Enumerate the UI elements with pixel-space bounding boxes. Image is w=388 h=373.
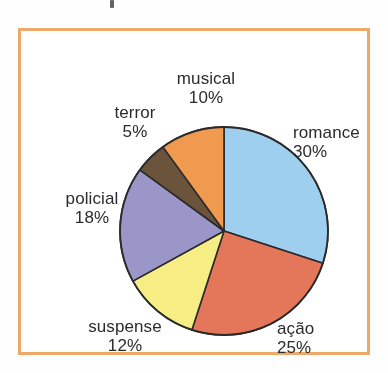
slice-label-suspense: suspense 12% — [69, 317, 181, 355]
slice-label-romance: romance 30% — [293, 123, 388, 161]
slice-label-romance-name: romance — [293, 123, 388, 142]
slice-label-policial-name: policial — [48, 189, 136, 208]
pie-chart: romance 30% ação 25% suspense 12% polici… — [21, 31, 367, 352]
slice-label-romance-value: 30% — [293, 142, 388, 161]
slice-label-policial-value: 18% — [48, 208, 136, 227]
slice-label-policial: policial 18% — [48, 189, 136, 227]
slice-label-terror-value: 5% — [97, 122, 173, 141]
page-background: romance 30% ação 25% suspense 12% polici… — [0, 0, 388, 373]
slice-label-terror: terror 5% — [97, 103, 173, 141]
slice-label-musical: musical 10% — [160, 69, 252, 107]
slice-label-acao-value: 25% — [277, 338, 369, 357]
figure-frame: romance 30% ação 25% suspense 12% polici… — [18, 28, 370, 355]
slice-label-suspense-value: 12% — [69, 336, 181, 355]
slice-label-acao-name: ação — [277, 319, 369, 338]
clipped-text-fragment — [110, 0, 114, 8]
slice-label-suspense-name: suspense — [69, 317, 181, 336]
slice-label-musical-value: 10% — [160, 88, 252, 107]
slice-label-acao: ação 25% — [277, 319, 369, 357]
slice-label-musical-name: musical — [160, 69, 252, 88]
